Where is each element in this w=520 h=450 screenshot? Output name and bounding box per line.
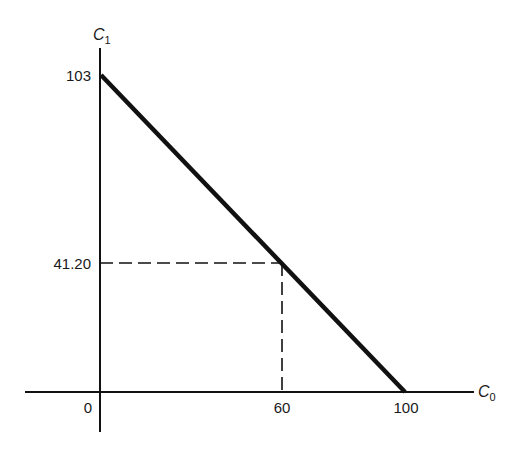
x-tick-label-100: 100 (393, 399, 418, 416)
x-axis-label: C0 (478, 383, 496, 403)
y-tick-label-41-20: 41.20 (53, 255, 91, 272)
x-tick-label-60: 60 (274, 399, 291, 416)
chart-canvas: 103 41.20 0 60 100 C1 C0 (0, 0, 520, 450)
x-tick-label-0: 0 (84, 399, 92, 416)
y-tick-label-103: 103 (66, 67, 91, 84)
y-axis-label: C1 (93, 26, 111, 46)
budget-line (101, 75, 405, 392)
